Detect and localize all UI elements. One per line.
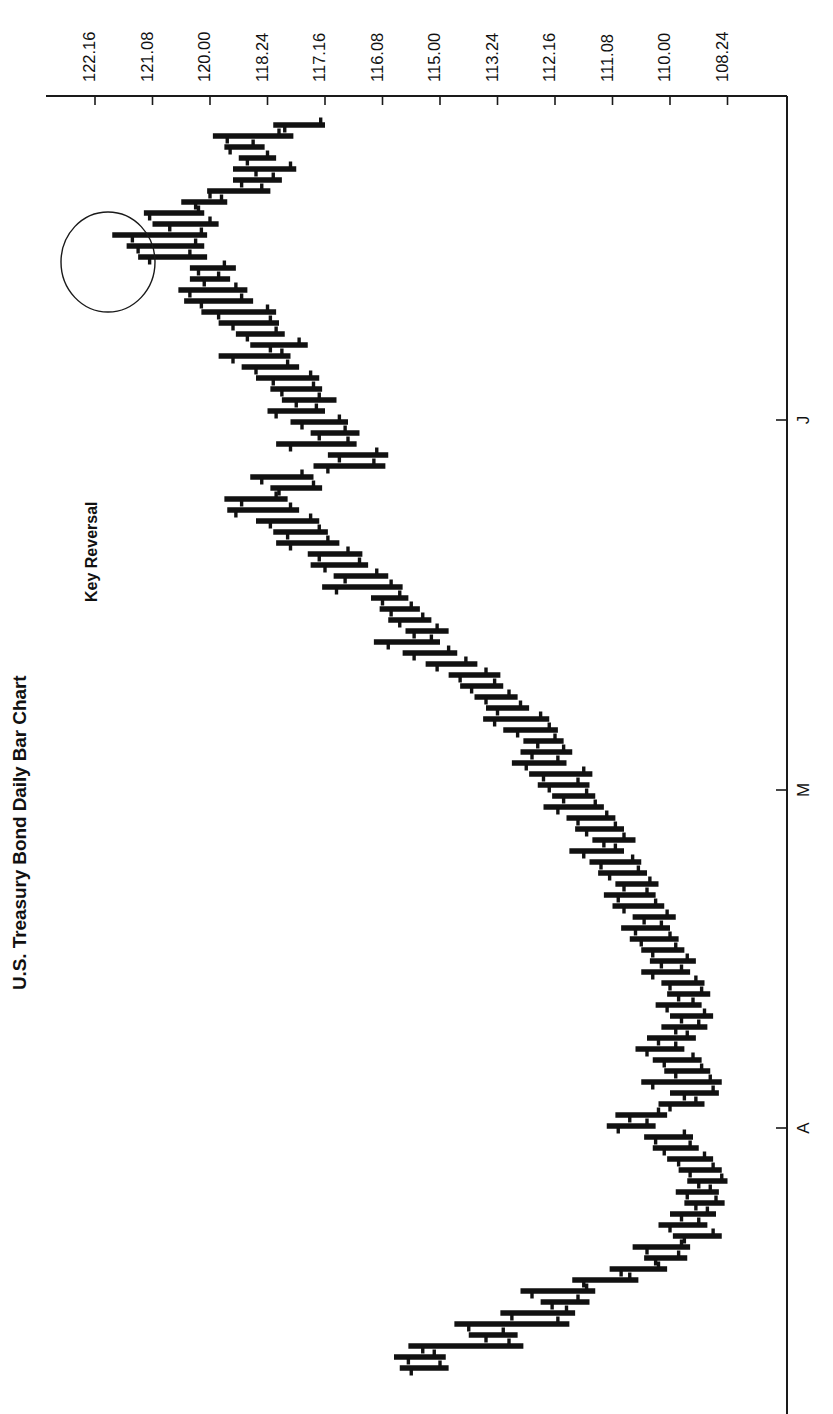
- ohlc-bar: [679, 1163, 722, 1178]
- ohlc-bar: [449, 668, 501, 683]
- ohlc-bar: [273, 525, 328, 540]
- price-tick-label: 110.00: [655, 33, 673, 82]
- ohlc-bar: [127, 239, 205, 254]
- ohlc-bar: [615, 877, 658, 892]
- ohlc-bar: [219, 349, 291, 364]
- ohlc-bar: [178, 283, 247, 298]
- price-tick-label: 115.00: [425, 33, 443, 82]
- ohlc-bar: [408, 1339, 523, 1354]
- ohlc-bar: [308, 547, 363, 562]
- ohlc-bar: [590, 855, 642, 870]
- ohlc-bar: [314, 459, 386, 474]
- ohlc-bar: [659, 1097, 705, 1112]
- ohlc-bar: [604, 888, 656, 903]
- ohlc-bar: [181, 195, 227, 210]
- ohlc-bar: [276, 437, 357, 452]
- ohlc-bar: [503, 723, 558, 738]
- ohlc-bar: [270, 481, 322, 496]
- ohlc-bar: [201, 305, 276, 320]
- ohlc-bar: [273, 118, 325, 133]
- ohlc-bar: [371, 591, 408, 606]
- ohlc-bar: [641, 1075, 722, 1090]
- ohlc-bar: [227, 503, 299, 518]
- price-axis: 122.16121.08120.00118.24117.16116.08115.…: [46, 32, 787, 105]
- ohlc-bar: [328, 448, 388, 463]
- ohlc-bar: [256, 371, 319, 386]
- ohlc-bar: [684, 1196, 724, 1211]
- ohlc-bar: [256, 514, 319, 529]
- ohlc-bar: [538, 778, 590, 793]
- ohlc-bar: [184, 294, 253, 309]
- ohlc-bar: [613, 899, 665, 914]
- ohlc-bar: [291, 415, 349, 430]
- price-tick-label: 121.08: [138, 32, 156, 82]
- chart-page: U.S. Treasury Bond Daily Bar Chart Key R…: [0, 0, 833, 1414]
- ohlc-bar: [394, 1350, 446, 1365]
- ohlc-bar: [475, 690, 518, 705]
- ohlc-bar: [661, 1020, 707, 1035]
- ohlc-bar: [153, 217, 219, 232]
- ohlc-bar: [653, 1141, 699, 1156]
- ohlc-bar: [334, 569, 389, 584]
- price-tick-label: 116.08: [368, 33, 386, 82]
- ohlc-bar: [575, 822, 624, 837]
- key-reversal-ellipse: [61, 212, 155, 312]
- ohlc-bar: [233, 162, 296, 177]
- ohlc-bar: [138, 250, 207, 265]
- ohlc-bar: [667, 1152, 713, 1167]
- ohlc-bar: [460, 679, 503, 694]
- ohlc-bar: [644, 1130, 693, 1145]
- ohlc-bar: [529, 767, 592, 782]
- ohlc-bar: [641, 943, 684, 958]
- ohlc-bar: [647, 1031, 696, 1046]
- ohlc-bar-chart-plot: 122.16121.08120.00118.24117.16116.08115.…: [0, 0, 833, 1414]
- ohlc-bar: [374, 635, 440, 650]
- ohlc-bar: [311, 426, 360, 441]
- date-axis: JMA: [776, 96, 813, 1414]
- ohlc-bar: [572, 1273, 638, 1288]
- ohlc-bar: [664, 1064, 710, 1079]
- ohlc-bar: [322, 580, 403, 595]
- ohlc-bar: [670, 1009, 713, 1024]
- price-tick-label: 113.24: [483, 33, 501, 82]
- ohlc-bar: [670, 1207, 716, 1222]
- ohlc-bar: [598, 866, 647, 881]
- ohlc-bar: [567, 811, 616, 826]
- ohlc-bar: [270, 382, 322, 397]
- ohlc-bar: [653, 1053, 702, 1068]
- ohlc-bar: [112, 228, 207, 243]
- key-reversal-ellipse: [61, 212, 155, 312]
- ohlc-bar: [239, 151, 276, 166]
- ohlc-bar: [207, 184, 270, 199]
- ohlc-bar: [224, 140, 264, 155]
- ohlc-bar: [615, 1108, 667, 1123]
- ohlc-bar: [236, 327, 285, 342]
- ohlc-bar: [388, 613, 431, 628]
- ohlc-bar: [486, 701, 529, 716]
- ohlc-bar: [483, 712, 549, 727]
- ohlc-bar: [282, 393, 337, 408]
- ohlc-bar: [219, 316, 279, 331]
- ohlc-bar: [521, 745, 573, 760]
- ohlc-bar: [650, 954, 696, 969]
- ohlc-bars: [112, 118, 727, 1376]
- price-tick-label: 120.00: [195, 32, 213, 82]
- ohlc-bar: [552, 789, 595, 804]
- ohlc-bar: [641, 965, 690, 980]
- ohlc-bar: [276, 536, 339, 551]
- ohlc-bar: [426, 657, 478, 672]
- ohlc-bar: [242, 360, 300, 375]
- ohlc-bar: [190, 261, 236, 276]
- ohlc-bar: [190, 272, 230, 287]
- ohlc-bar: [523, 734, 563, 749]
- price-tick-label: 112.16: [540, 33, 558, 82]
- price-tick-label: 122.16: [80, 32, 98, 82]
- ohlc-bar: [380, 602, 420, 617]
- ohlc-bar: [544, 800, 604, 815]
- ohlc-bar: [500, 1306, 575, 1321]
- ohlc-bar: [250, 470, 313, 485]
- ohlc-bar: [403, 646, 458, 661]
- ohlc-bar: [406, 624, 449, 639]
- ohlc-bar: [569, 844, 624, 859]
- month-tick-label: M: [794, 783, 813, 797]
